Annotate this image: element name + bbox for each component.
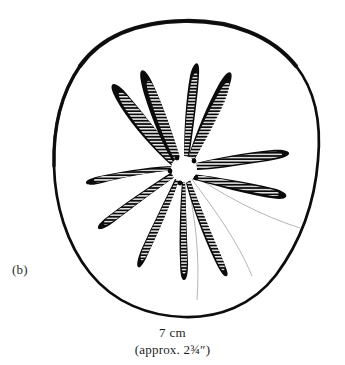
panel-label: (b) bbox=[12, 262, 28, 278]
apical-pore bbox=[194, 176, 199, 181]
sand-dollar-illustration bbox=[0, 0, 345, 365]
apical-pore bbox=[192, 159, 197, 164]
caption-size-metric: 7 cm bbox=[0, 325, 345, 341]
apical-pore bbox=[168, 169, 173, 174]
caption-size-imperial: (approx. 2¾″) bbox=[0, 342, 345, 358]
figure-panel: (b) 7 cm (approx. 2¾″) bbox=[0, 0, 345, 365]
figure-caption: 7 cm (approx. 2¾″) bbox=[0, 325, 345, 358]
apical-pore bbox=[178, 181, 183, 186]
apical-pore bbox=[175, 156, 180, 161]
